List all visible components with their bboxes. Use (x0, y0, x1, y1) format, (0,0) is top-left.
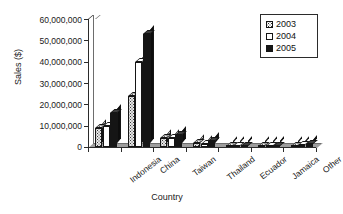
bar-china-2005 (143, 34, 150, 147)
bar-side (150, 25, 154, 143)
bar-china-2004 (135, 62, 142, 147)
legend: 2003 2004 2005 (260, 14, 318, 58)
y-axis-cap (88, 15, 101, 19)
x-axis-title: Country (0, 192, 334, 202)
bar-face (103, 126, 110, 147)
bar-face (143, 34, 150, 147)
bar-indonesia-2004 (103, 126, 110, 147)
bar-face (135, 62, 142, 147)
y-tick-label: 10,000,000 (20, 121, 82, 131)
x-axis-category-labels: IndonesiaChinaTaiwanThailandEcuadorJamai… (88, 152, 334, 196)
x-axis-line (88, 147, 316, 148)
bar-taiwan-2004 (168, 138, 175, 147)
bar-face (168, 138, 175, 147)
x-axis-category-label: Jamaica (290, 154, 321, 181)
legend-item-2004[interactable]: 2004 (261, 30, 317, 42)
y-axis-line (88, 19, 89, 148)
legend-swatch-icon (266, 45, 273, 52)
x-axis-category-label: Other (320, 154, 343, 175)
legend-swatch-icon (266, 21, 273, 28)
bar-face (110, 113, 117, 147)
y-tick-label: 40,000,000 (20, 57, 82, 67)
bar-indonesia-2003 (95, 128, 102, 147)
x-axis-category-label: Ecuador (257, 154, 288, 181)
legend-swatch-icon (266, 33, 273, 40)
y-axis-tick-labels: 60,000,000 50,000,000 40,000,000 30,000,… (16, 0, 82, 214)
bar-side (182, 127, 186, 143)
bar-taiwan-2003 (160, 138, 167, 147)
y-tick-label: 30,000,000 (20, 79, 82, 89)
legend-label: 2004 (276, 32, 296, 41)
bar-face (160, 138, 167, 147)
x-axis-category-label: Taiwan (191, 154, 218, 178)
legend-item-2003[interactable]: 2003 (261, 18, 317, 30)
x-axis-category-label: China (158, 154, 182, 176)
y-tick-label: 60,000,000 (20, 15, 82, 25)
y-tick-label: 50,000,000 (20, 36, 82, 46)
x-axis-category-label: Thailand (225, 154, 257, 182)
bar-face (175, 135, 182, 147)
bar-face (95, 128, 102, 147)
legend-item-2005[interactable]: 2005 (261, 42, 317, 54)
bar-face (128, 96, 135, 147)
bar-indonesia-2005 (110, 113, 117, 147)
bar-china-2003 (128, 96, 135, 147)
legend-label: 2005 (276, 44, 296, 53)
legend-label: 2003 (276, 20, 296, 29)
bar-taiwan-2005 (175, 135, 182, 147)
y-axis-back-line (93, 15, 94, 144)
y-tick-label: 0 (20, 142, 82, 152)
y-tick-label: 20,000,000 (20, 100, 82, 110)
